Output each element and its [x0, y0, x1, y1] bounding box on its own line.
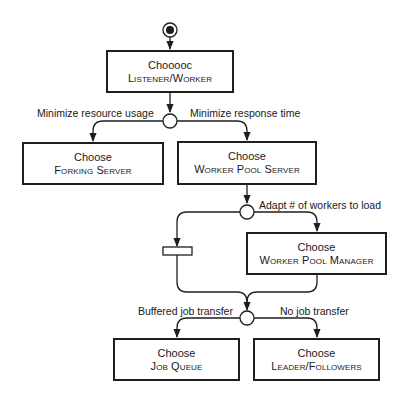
node-pattern: Listener/Worker	[128, 72, 212, 85]
start-node-icon	[163, 23, 177, 37]
node-leader-followers: Choose Leader/Followers	[253, 338, 380, 381]
node-forking-server: Choose Forking Server	[22, 142, 164, 185]
node-job-queue: Choose Job Queue	[113, 338, 240, 381]
sync-bar	[163, 247, 192, 255]
node-pattern: Forking Server	[54, 164, 132, 177]
node-title: Chooooc	[148, 59, 192, 72]
node-pattern: Job Queue	[151, 360, 203, 373]
edge-label-min-response: Minimize response time	[190, 107, 300, 119]
edge-label-adapt-workers: Adapt # of workers to load	[259, 199, 381, 211]
decision-node-1	[163, 114, 177, 128]
edge-label-no-transfer: No job transfer	[280, 305, 349, 317]
node-title: Choose	[298, 347, 336, 360]
node-pattern: Leader/Followers	[271, 360, 361, 373]
node-worker-pool-manager: Choose Worker Pool Manager	[246, 232, 387, 275]
edge-label-buffered: Buffered job transfer	[138, 305, 233, 317]
node-title: Choose	[74, 151, 112, 164]
node-title: Choose	[158, 347, 196, 360]
node-pattern: Worker Pool Server	[194, 163, 300, 176]
node-title: Choose	[228, 150, 266, 163]
node-pattern: Worker Pool Manager	[259, 254, 373, 267]
decision-node-3	[240, 311, 254, 325]
node-listener-worker: Chooooc Listener/Worker	[106, 50, 234, 93]
node-title: Choose	[298, 241, 336, 254]
node-worker-pool-server: Choose Worker Pool Server	[177, 141, 317, 185]
decision-node-2	[240, 205, 254, 219]
edge-label-min-resource: Minimize resource usage	[37, 107, 154, 119]
